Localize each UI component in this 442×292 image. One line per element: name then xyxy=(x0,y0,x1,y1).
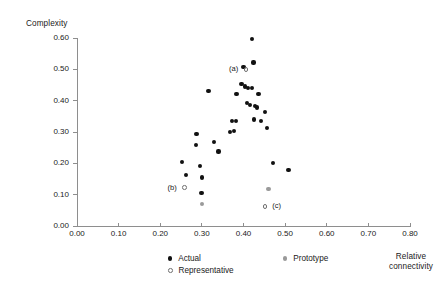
data-point-actual xyxy=(200,175,204,179)
x-tick-label: 0.40 xyxy=(224,229,264,238)
data-point-actual xyxy=(216,149,220,153)
data-point-actual xyxy=(286,168,290,172)
legend-label-representative: Representative xyxy=(179,266,234,275)
chart-legend: Actual Representative Prototype xyxy=(168,254,388,284)
data-point-actual xyxy=(271,161,275,165)
data-point-representative xyxy=(263,204,268,209)
y-tick-label: 0.40 xyxy=(37,96,69,105)
point-annotation: (a) xyxy=(229,64,238,73)
y-tick-label: 0.50 xyxy=(37,64,69,73)
data-point-actual xyxy=(199,191,203,195)
y-tick-label: 0.10 xyxy=(37,190,69,199)
data-point-actual xyxy=(184,173,188,177)
data-point-actual xyxy=(251,60,255,64)
legend-item-representative[interactable]: Representative xyxy=(168,266,234,275)
x-tick-label: 0.20 xyxy=(140,229,180,238)
x-tick-label: 0.10 xyxy=(99,229,139,238)
legend-label-actual: Actual xyxy=(178,254,201,263)
scatter-chart: Complexity Relative connectivity 0.000.1… xyxy=(0,0,442,292)
legend-item-prototype[interactable]: Prototype xyxy=(283,254,328,263)
legend-marker-actual-icon xyxy=(168,256,172,260)
data-point-actual xyxy=(256,92,260,96)
x-tick-label: 0.60 xyxy=(307,229,347,238)
point-annotation: (c) xyxy=(272,201,281,210)
data-point-actual xyxy=(255,105,259,109)
data-point-actual xyxy=(194,132,198,136)
x-axis-title: Relative connectivity xyxy=(381,252,441,272)
x-tick-label: 0.80 xyxy=(390,229,430,238)
y-tick-label: 0.60 xyxy=(37,33,69,42)
x-axis-line xyxy=(77,226,411,227)
data-point-actual xyxy=(194,143,198,147)
x-tick-label: 0.30 xyxy=(182,229,222,238)
data-point-representative xyxy=(182,185,187,190)
data-point-actual xyxy=(206,89,210,93)
point-annotation: (b) xyxy=(167,183,176,192)
data-point-prototype xyxy=(200,202,204,206)
legend-label-prototype: Prototype xyxy=(293,254,328,263)
x-tick-label: 0.70 xyxy=(348,229,388,238)
y-tick-label: 0.20 xyxy=(37,158,69,167)
data-point-actual xyxy=(234,92,238,96)
data-point-actual xyxy=(252,117,256,121)
legend-marker-representative-icon xyxy=(168,268,173,273)
data-point-prototype xyxy=(266,187,270,191)
legend-item-actual[interactable]: Actual xyxy=(168,254,201,263)
x-tick-label: 0.00 xyxy=(57,229,97,238)
y-axis-title: Complexity xyxy=(26,19,68,29)
y-tick-label: 0.30 xyxy=(37,127,69,136)
legend-marker-prototype-icon xyxy=(283,256,287,260)
x-tick-label: 0.50 xyxy=(265,229,305,238)
data-point-representative xyxy=(244,67,249,72)
